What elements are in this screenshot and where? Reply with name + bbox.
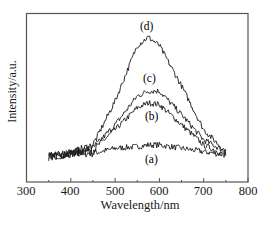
- y-axis-label: Intensity/a.u.: [5, 42, 20, 142]
- x-tick-400: 400: [55, 184, 85, 199]
- x-tick-700: 700: [188, 184, 218, 199]
- x-tick-300: 300: [11, 184, 41, 199]
- x-tick-500: 500: [100, 184, 130, 199]
- x-axis-ticks: [27, 178, 249, 182]
- x-tick-600: 600: [144, 184, 174, 199]
- curve-label-b: (b): [145, 110, 159, 123]
- curve-label-c: (c): [143, 72, 156, 85]
- x-tick-800: 800: [233, 184, 263, 199]
- curves: [49, 36, 226, 161]
- curve-label-d: (d): [140, 20, 154, 33]
- x-axis-label: Wavelength/nm: [80, 198, 200, 213]
- curve-label-a: (a): [145, 153, 158, 166]
